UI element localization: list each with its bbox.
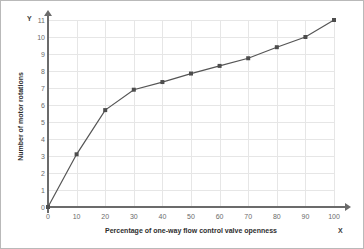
- y-tick-label: 5: [23, 119, 45, 126]
- x-tick-label: 50: [179, 213, 203, 220]
- gridline-vertical: [248, 20, 249, 207]
- gridline-vertical: [105, 20, 106, 207]
- x-tick-label: 70: [236, 213, 260, 220]
- gridline-vertical: [77, 20, 78, 207]
- gridline-vertical: [277, 20, 278, 207]
- y-tick-label: 6: [23, 102, 45, 109]
- x-axis-title: Percentage of one-way flow control valve…: [48, 227, 334, 234]
- y-tick-label: 3: [23, 153, 45, 160]
- gridline-vertical: [305, 20, 306, 207]
- gridline-vertical: [220, 20, 221, 207]
- plot-area: [48, 20, 334, 207]
- y-tick-label: 2: [23, 170, 45, 177]
- gridline-vertical: [162, 20, 163, 207]
- x-axis-letter: X: [338, 227, 343, 234]
- gridline-vertical: [191, 20, 192, 207]
- gridline-vertical: [334, 20, 335, 207]
- chart-container: Y X 01234567891011 Percentage of one-way…: [0, 0, 364, 249]
- x-tick-label: 100: [322, 213, 346, 220]
- y-tick-label: 11: [23, 17, 45, 24]
- x-axis-line: [47, 206, 347, 208]
- x-axis-arrow-icon: [345, 203, 351, 211]
- x-tick-label: 10: [65, 213, 89, 220]
- y-axis-line: [47, 15, 49, 213]
- x-tick-label: 90: [293, 213, 317, 220]
- y-tick-label: 7: [23, 85, 45, 92]
- y-tick-label: 4: [23, 136, 45, 143]
- y-axis-arrow-icon: [44, 10, 52, 16]
- y-tick-label: 1: [23, 187, 45, 194]
- y-tick-label: 8: [23, 68, 45, 75]
- x-tick-label: 40: [150, 213, 174, 220]
- y-axis-title: Number of motor rotations: [17, 42, 24, 192]
- x-tick-label: 60: [208, 213, 232, 220]
- x-tick-label: 20: [93, 213, 117, 220]
- gridline-vertical: [134, 20, 135, 207]
- y-tick-label: 9: [23, 51, 45, 58]
- x-tick-label: 30: [122, 213, 146, 220]
- y-tick-label: 0: [23, 204, 45, 211]
- x-tick-label: 80: [265, 213, 289, 220]
- y-tick-label: 10: [23, 34, 45, 41]
- x-tick-label: 0: [36, 213, 60, 220]
